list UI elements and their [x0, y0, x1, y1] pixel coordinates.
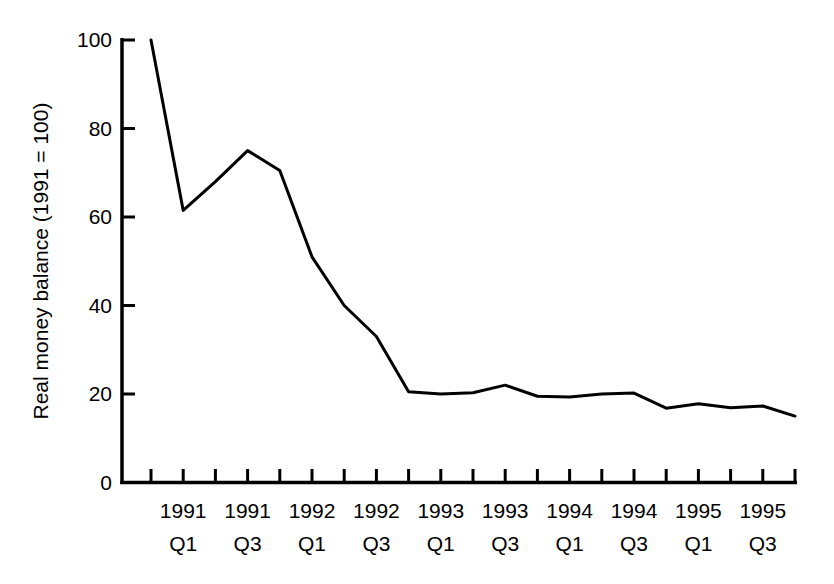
x-tick-label-quarter: Q3	[491, 532, 519, 555]
x-tick-label-year: 1995	[739, 499, 786, 522]
y-tick-label: 80	[89, 117, 112, 140]
x-tick-label-year: 1992	[353, 499, 400, 522]
x-tick-label-quarter: Q1	[298, 532, 326, 555]
x-tick-label-quarter: Q3	[749, 532, 777, 555]
y-tick-label: 40	[89, 294, 112, 317]
x-tick-label-year: 1994	[546, 499, 593, 522]
x-tick-label-quarter: Q1	[169, 532, 197, 555]
x-tick-label-year: 1995	[675, 499, 722, 522]
x-tick-label-year: 1992	[289, 499, 336, 522]
y-tick-label: 0	[100, 471, 112, 494]
x-tick-label-quarter: Q3	[234, 532, 262, 555]
line-chart: Real money balance (1991 = 100) 02040608…	[0, 0, 834, 584]
x-tick-label-year: 1993	[482, 499, 529, 522]
x-tick-label-quarter: Q1	[427, 532, 455, 555]
chart-container: Real money balance (1991 = 100) 02040608…	[0, 0, 834, 584]
y-axis-title: Real money balance (1991 = 100)	[29, 103, 52, 420]
x-tick-label-quarter: Q3	[620, 532, 648, 555]
x-tick-label-quarter: Q1	[556, 532, 584, 555]
y-tick-label: 100	[77, 28, 112, 51]
y-axis-title-label: Real money balance (1991 = 100)	[29, 103, 52, 420]
x-tick-label-year: 1994	[611, 499, 658, 522]
x-tick-marks	[151, 469, 795, 483]
x-tick-label-year: 1991	[160, 499, 207, 522]
chart-background	[0, 0, 834, 584]
x-tick-label-year: 1991	[224, 499, 271, 522]
y-tick-label: 60	[89, 205, 112, 228]
x-tick-label-year: 1993	[417, 499, 464, 522]
x-tick-label-quarter: Q1	[684, 532, 712, 555]
x-tick-label-quarter: Q3	[362, 532, 390, 555]
y-tick-label: 20	[89, 382, 112, 405]
